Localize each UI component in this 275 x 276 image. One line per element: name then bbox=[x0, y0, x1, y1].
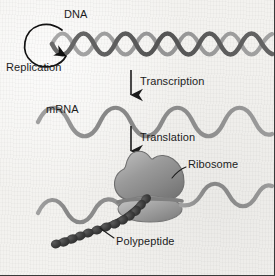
label-mrna: mRNA bbox=[46, 103, 79, 115]
label-transcription: Transcription bbox=[140, 75, 204, 87]
ribosome bbox=[114, 151, 184, 222]
central-dogma-figure: DNA Replication Transcription mRNA Trans… bbox=[0, 0, 275, 276]
label-translation: Translation bbox=[140, 131, 195, 143]
dna-double-helix bbox=[52, 34, 272, 55]
mrna-strand-lower-right bbox=[181, 184, 272, 207]
label-ribosome: Ribosome bbox=[188, 158, 238, 170]
label-polypeptide: Polypeptide bbox=[116, 235, 175, 247]
label-dna: DNA bbox=[64, 8, 88, 20]
label-replication: Replication bbox=[6, 61, 62, 73]
